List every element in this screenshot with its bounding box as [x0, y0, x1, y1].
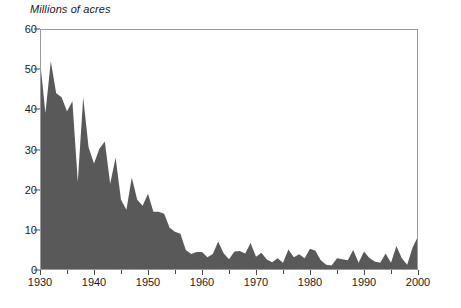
x-axis-tick-label: 1940	[82, 276, 106, 288]
x-axis-tick-label: 2000	[406, 276, 430, 288]
plot-area	[40, 29, 418, 270]
x-axis-minor-tick-mark	[121, 270, 122, 274]
x-axis-minor-tick-mark	[229, 270, 230, 274]
area-chart: Millions of acres 0102030405060 19301940…	[0, 0, 461, 308]
x-axis-tick-label: 1980	[298, 276, 322, 288]
x-axis-tick-label: 1950	[136, 276, 160, 288]
x-axis-tick-label: 1990	[352, 276, 376, 288]
x-axis-tick-mark	[310, 270, 311, 275]
chart-title: Millions of acres	[30, 3, 111, 15]
x-axis-minor-tick-mark	[337, 270, 338, 274]
x-axis-tick-mark	[418, 270, 419, 275]
x-axis-tick-mark	[364, 270, 365, 275]
x-axis-tick-label: 1970	[244, 276, 268, 288]
x-axis-tick-mark	[94, 270, 95, 275]
x-axis-tick-mark	[148, 270, 149, 275]
x-axis-tick-mark	[202, 270, 203, 275]
area-series	[40, 29, 418, 270]
x-axis-minor-tick-mark	[283, 270, 284, 274]
x-axis-tick-mark	[256, 270, 257, 275]
x-axis-tick-label: 1960	[190, 276, 214, 288]
area-polygon	[40, 60, 418, 270]
x-axis-tick-label: 1930	[28, 276, 52, 288]
x-axis-minor-tick-mark	[391, 270, 392, 274]
x-axis-tick-mark	[40, 270, 41, 275]
x-axis-minor-tick-mark	[67, 270, 68, 274]
x-axis-minor-tick-mark	[175, 270, 176, 274]
